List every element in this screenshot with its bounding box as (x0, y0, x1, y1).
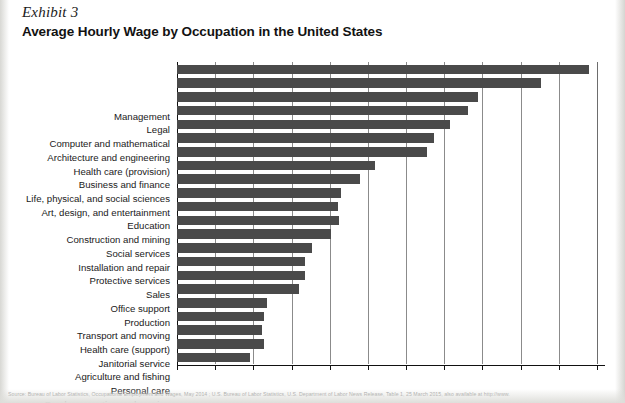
y-tick-label: Management (114, 111, 170, 122)
x-tick-25 (368, 365, 369, 370)
bar-row (177, 62, 605, 76)
x-tick-10 (253, 365, 254, 370)
bar (177, 188, 341, 198)
x-axis-line (177, 365, 605, 366)
bar (177, 216, 339, 226)
bar (177, 202, 338, 212)
y-tick-label: Education (127, 220, 170, 231)
exhibit-label: Exhibit 3 (22, 4, 78, 21)
bar (177, 353, 250, 363)
y-tick-label: Legal (147, 124, 170, 135)
bar-row (177, 131, 605, 145)
bar (177, 312, 264, 322)
bar-row (177, 268, 605, 282)
y-tick-label: Office support (110, 303, 170, 314)
bar (177, 106, 468, 116)
x-tick-0 (177, 365, 178, 370)
y-tick-label: Construction and mining (67, 234, 170, 245)
bar (177, 147, 427, 157)
y-tick-label: Business and finance (79, 179, 170, 190)
x-tick-20 (330, 365, 331, 370)
y-tick-label: Installation and repair (78, 262, 170, 273)
bar (177, 92, 478, 102)
bar (177, 78, 541, 88)
bar-row (177, 103, 605, 117)
bar-row (177, 282, 605, 296)
y-tick-label: Agriculture and fishing (75, 371, 170, 382)
bar (177, 325, 262, 335)
y-tick-label: Protective services (89, 275, 170, 286)
y-tick-label: Production (124, 317, 170, 328)
bar-row (177, 337, 605, 351)
chart-title: Average Hourly Wage by Occupation in the… (22, 24, 382, 39)
y-tick-label: Health care (support) (80, 344, 170, 355)
y-tick-label: Computer and mathematical (49, 138, 170, 149)
bar-row (177, 295, 605, 309)
x-tick-5 (215, 365, 216, 370)
bar (177, 174, 360, 184)
y-tick-label: Transport and moving (77, 330, 170, 341)
bar-row (177, 199, 605, 213)
bar-row (177, 309, 605, 323)
bar (177, 339, 264, 349)
bar-row (177, 186, 605, 200)
bar-row (177, 158, 605, 172)
bar (177, 161, 375, 171)
bar (177, 257, 305, 267)
y-axis-category-labels: ManagementLegalComputer and mathematical… (0, 110, 174, 403)
x-tick-40 (482, 365, 483, 370)
bar-chart: ManagementLegalComputer and mathematical… (0, 48, 625, 386)
y-tick-label: Janitorial service (99, 358, 170, 369)
bar (177, 243, 312, 253)
x-tick-35 (444, 365, 445, 370)
y-tick-label: Food preparation and serving (45, 399, 170, 403)
x-tick-50 (559, 365, 560, 370)
x-tick-45 (521, 365, 522, 370)
bar (177, 133, 434, 143)
y-tick-label: Sales (146, 289, 170, 300)
source-footnote: Source: Bureau of Labor Statistics, Occu… (8, 391, 620, 397)
bar-row (177, 254, 605, 268)
bar-row (177, 144, 605, 158)
bar (177, 271, 305, 281)
bar-row (177, 76, 605, 90)
bar-series (177, 62, 605, 364)
bar-row (177, 213, 605, 227)
bar-row (177, 89, 605, 103)
x-tick-15 (292, 365, 293, 370)
x-tick-30 (406, 365, 407, 370)
bar (177, 120, 450, 130)
y-tick-label: Health care (provision) (73, 166, 170, 177)
plot-area (177, 62, 605, 380)
y-tick-label: Architecture and engineering (47, 152, 170, 163)
bar-row (177, 350, 605, 364)
bar (177, 284, 299, 294)
bar (177, 65, 589, 75)
bar-row (177, 323, 605, 337)
bar-row (177, 172, 605, 186)
y-tick-label: Life, physical, and social sciences (26, 193, 170, 204)
bar-row (177, 117, 605, 131)
y-tick-label: Social services (106, 248, 170, 259)
exhibit-page: Exhibit 3 Average Hourly Wage by Occupat… (0, 0, 625, 403)
bar-row (177, 240, 605, 254)
y-tick-label: Art, design, and entertainment (41, 207, 170, 218)
bar (177, 298, 267, 308)
x-tick-55 (597, 365, 598, 370)
bar (177, 229, 331, 239)
bar-row (177, 227, 605, 241)
